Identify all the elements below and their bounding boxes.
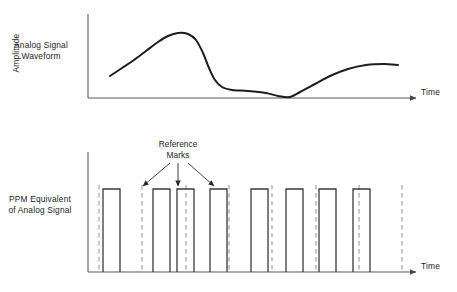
ppm-pulse <box>319 189 336 272</box>
reference-mark-arrow <box>188 163 214 186</box>
analog-axes <box>88 14 416 98</box>
reference-arrow-group <box>143 163 214 186</box>
ppm-pulse <box>103 189 120 272</box>
analog-waveform-group <box>110 33 398 97</box>
ppm-panel-label: PPM Equivalent of Analog Signal <box>0 194 80 216</box>
ppm-pulse <box>210 189 227 272</box>
amplitude-axis-label: Amplitude <box>11 25 21 81</box>
ppm-pulse <box>353 189 370 272</box>
ppm-pulse <box>251 189 268 272</box>
time-axis-label-analog: Time <box>421 87 440 97</box>
ppm-pulse-group <box>103 189 370 272</box>
reference-mark-arrow <box>143 163 170 186</box>
ppm-pulse <box>286 189 303 272</box>
ppm-axes <box>88 152 416 272</box>
analog-waveform-curve <box>110 33 398 97</box>
reference-marks-annotation: Reference Marks <box>139 139 217 161</box>
figure-root: Analog Signal Waveform PPM Equivalent of… <box>0 0 457 292</box>
ppm-pulse <box>153 189 170 272</box>
time-axis-label-ppm: Time <box>421 261 440 271</box>
